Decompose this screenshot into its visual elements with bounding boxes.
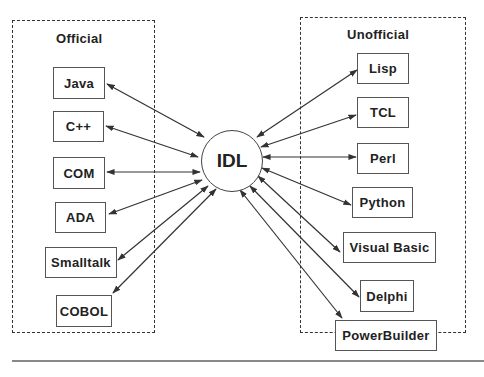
node-smalltalk: Smalltalk: [45, 247, 117, 278]
node-powerbuilder: PowerBuilder: [335, 320, 437, 351]
node-python: Python: [352, 187, 413, 218]
bottom-rule: [12, 360, 484, 362]
node-lisp: Lisp: [357, 53, 409, 84]
official-group-title: Official: [56, 31, 102, 46]
node-delphi: Delphi: [360, 280, 414, 312]
idl-hub: IDL: [201, 130, 263, 192]
node-tcl: TCL: [357, 97, 409, 128]
unofficial-group-title: Unofficial: [347, 27, 409, 42]
node-cobol: COBOL: [56, 295, 112, 327]
node-visual-basic: Visual Basic: [343, 232, 436, 263]
node-ada: ADA: [55, 202, 106, 233]
node-java: Java: [53, 67, 105, 99]
node-perl: Perl: [357, 143, 409, 174]
node-cpp: C++: [53, 111, 104, 142]
node-com: COM: [53, 157, 105, 189]
